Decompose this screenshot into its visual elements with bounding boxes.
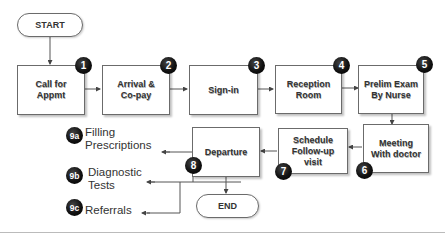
outcome-label: Diagnostic bbox=[88, 166, 142, 178]
start-label: START bbox=[35, 20, 64, 30]
outcome-diagnostic-tests: Diagnostic Tests bbox=[88, 166, 142, 192]
step-meeting-with-doctor: Meeting With doctor bbox=[363, 124, 429, 173]
step-number-badge: 3 bbox=[248, 57, 265, 74]
outcome-badge: 9a bbox=[66, 127, 83, 144]
step-label: With doctor bbox=[371, 149, 421, 159]
step-number-badge: 8 bbox=[185, 157, 202, 174]
step-label: Sign-in bbox=[208, 85, 239, 96]
step-label: Co-pay bbox=[121, 90, 152, 100]
step-departure: Departure bbox=[192, 127, 260, 177]
step-label: Meeting bbox=[379, 138, 413, 148]
step-number-badge: 6 bbox=[356, 162, 373, 179]
outcome-badge: 9b bbox=[66, 167, 83, 184]
outcome-label: Filling bbox=[85, 126, 115, 138]
patient-flow-diagram: START Call for Appmt 1 Arrival & Co-pay … bbox=[0, 0, 445, 233]
outcome-badge: 9c bbox=[66, 199, 83, 216]
step-label: Schedule bbox=[293, 135, 333, 145]
step-label: Follow-up bbox=[292, 146, 335, 156]
outcome-referrals: Referrals bbox=[85, 204, 132, 217]
outcome-label: Tests bbox=[88, 179, 115, 191]
step-label: visit bbox=[304, 157, 322, 167]
step-prelim-exam-by-nurse: Prelim Exam By Nurse bbox=[358, 65, 424, 114]
step-label: Call for bbox=[35, 79, 66, 89]
step-number-badge: 2 bbox=[160, 57, 177, 74]
outcome-label: Referrals bbox=[85, 204, 132, 216]
outcome-filling-prescriptions: Filling Prescriptions bbox=[85, 126, 151, 152]
step-number-badge: 4 bbox=[333, 57, 350, 74]
step-reception-room: Reception Room bbox=[275, 65, 342, 114]
step-label: Reception bbox=[287, 79, 331, 89]
step-number-badge: 1 bbox=[75, 57, 92, 74]
step-label: Arrival & bbox=[117, 79, 155, 89]
end-terminal: END bbox=[196, 194, 259, 218]
step-sign-in: Sign-in bbox=[189, 65, 258, 115]
step-label: Departure bbox=[205, 147, 248, 158]
start-terminal: START bbox=[17, 13, 83, 37]
step-label: Prelim Exam bbox=[364, 79, 418, 89]
step-number-badge: 5 bbox=[416, 56, 433, 73]
step-label: By Nurse bbox=[371, 90, 411, 100]
step-call-for-appointment: Call for Appmt bbox=[17, 65, 85, 115]
step-arrival-copay: Arrival & Co-pay bbox=[102, 65, 170, 115]
step-number-badge: 7 bbox=[275, 163, 292, 180]
step-label: Appmt bbox=[37, 90, 66, 100]
end-label: END bbox=[218, 201, 237, 211]
step-label: Room bbox=[296, 90, 322, 100]
divider bbox=[0, 232, 445, 233]
outcome-label: Prescriptions bbox=[85, 139, 151, 151]
